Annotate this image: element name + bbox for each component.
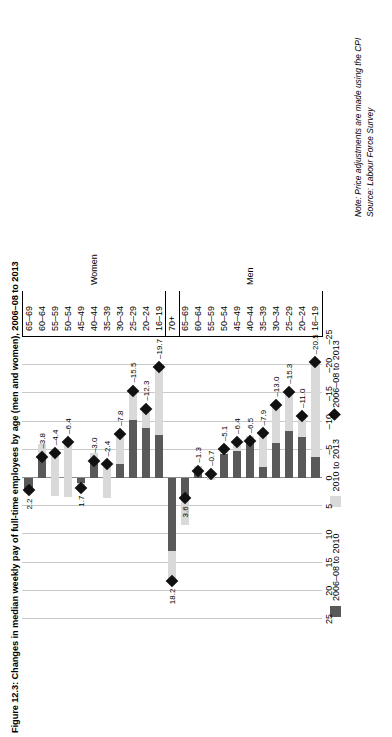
bar-row	[181, 337, 189, 619]
data-label: –1.3	[194, 447, 203, 463]
bar-row	[233, 337, 241, 619]
bar-segment-period1	[220, 454, 228, 478]
category-label: 55–59	[50, 306, 60, 331]
category-label: 55–59	[206, 306, 216, 331]
data-label: 18.2	[168, 589, 177, 605]
category-label: 65–69	[24, 306, 34, 331]
figure-stage: Figure 12.3: Changes in median weekly pa…	[0, 0, 392, 737]
figure-notes: Note: Price adjustments are made using t…	[352, 38, 376, 217]
plot-area: 2520151050–5–10–15–20–252.2–3.8–4.4–6.41…	[22, 337, 322, 619]
bar-row	[246, 337, 254, 619]
group-label: Women	[89, 254, 99, 285]
data-label: 1.7	[76, 496, 85, 507]
category-label: 50–54	[63, 306, 73, 331]
legend-item: 2006–08 to 2010	[330, 533, 341, 617]
bar-segment-period2	[64, 442, 72, 497]
data-label: –6.4	[63, 418, 72, 434]
bar-segment-period1	[259, 467, 267, 478]
category-label: 65–69	[180, 306, 190, 331]
page-title: Figure 12.3: Changes in median weekly pa…	[10, 261, 20, 733]
bar-segment-period1	[155, 435, 163, 478]
data-label: –3.0	[89, 438, 98, 454]
legend-item: 2006–08 to 2013	[331, 340, 341, 413]
figure-source: Source: Labour Force Survey	[364, 38, 376, 217]
x-axis-tick-label: 10	[324, 529, 334, 539]
data-label: –13.0	[272, 377, 281, 397]
bar-segment-period2	[311, 362, 319, 456]
category-label: 40–44	[89, 306, 99, 331]
group-separator	[22, 291, 23, 337]
bar-row	[77, 337, 85, 619]
bar-row	[220, 337, 228, 619]
bar-row	[155, 337, 163, 619]
category-label: 40–44	[245, 306, 255, 331]
data-label: –7.9	[259, 410, 268, 426]
category-label: 30–34	[115, 306, 125, 331]
data-label: 2.2	[24, 498, 33, 509]
bar-segment-period1	[116, 464, 124, 478]
category-axis: 65–6960–6455–5950–5445–4940–4435–3930–34…	[22, 277, 322, 337]
x-axis-tick-label: –10	[324, 414, 334, 429]
group-label: Men	[245, 267, 255, 285]
bar-row	[142, 337, 150, 619]
x-axis-tick-label: –5	[324, 445, 334, 455]
bar-row	[90, 337, 98, 619]
bar-row	[298, 337, 306, 619]
category-label: 16–19	[154, 306, 164, 331]
data-label: –20.5	[311, 334, 320, 354]
x-axis-tick-label: –20	[324, 358, 334, 373]
category-label: 45–49	[232, 306, 242, 331]
category-axis-line	[22, 336, 322, 337]
bar-row	[103, 337, 111, 619]
data-label: –4.4	[50, 430, 59, 446]
bar-segment-period1	[129, 420, 137, 478]
category-label: 50–54	[219, 306, 229, 331]
bar-row	[311, 337, 319, 619]
bar-row	[38, 337, 46, 619]
bar-segment-period1	[272, 443, 280, 478]
data-label: –0.7	[207, 450, 216, 466]
data-label: –7.8	[115, 410, 124, 426]
bar-segment-period2	[155, 367, 163, 435]
data-label: –2.4	[102, 441, 111, 457]
category-label: 70+	[167, 316, 177, 331]
category-label: 45–49	[76, 306, 86, 331]
figure-note: Note: Price adjustments are made using t…	[352, 38, 364, 217]
category-label: 35–39	[102, 306, 112, 331]
x-axis-tick-label: 20	[324, 586, 334, 596]
bar-row	[194, 337, 202, 619]
data-label: –19.7	[154, 339, 163, 359]
data-label: –11.0	[298, 389, 307, 408]
bar-segment-period1	[285, 431, 293, 478]
bar-segment-period1	[142, 428, 150, 478]
x-axis-tick-label: 5	[324, 504, 334, 509]
category-label: 60–64	[37, 306, 47, 331]
data-label: –3.8	[37, 433, 46, 449]
group-separator	[322, 291, 323, 337]
bar-segment-period1	[168, 478, 176, 551]
category-label: 30–34	[271, 306, 281, 331]
x-axis-tick-label: 25	[324, 614, 334, 624]
bar-row	[116, 337, 124, 619]
bar-row	[24, 337, 32, 619]
category-label: 20–24	[297, 306, 307, 331]
category-label: 25–29	[284, 306, 294, 331]
data-label: –15.5	[128, 363, 137, 383]
group-separator	[165, 291, 166, 337]
data-label: –6.4	[233, 418, 242, 434]
data-label: –5.1	[220, 426, 229, 442]
bar-segment-period1	[233, 452, 241, 479]
data-label: 3.6	[181, 506, 190, 517]
category-label: 20–24	[141, 306, 151, 331]
bar-row	[259, 337, 267, 619]
group-separator	[179, 291, 180, 337]
bar-segment-period1	[298, 437, 306, 478]
category-label: 25–29	[128, 306, 138, 331]
bar-row	[51, 337, 59, 619]
category-label: 16–19	[310, 306, 320, 331]
x-axis-tick-label: –25	[324, 329, 334, 344]
x-axis-tick-label: –15	[324, 386, 334, 401]
data-label: –15.3	[285, 364, 294, 384]
x-axis-tick-label: 15	[324, 558, 334, 568]
data-label: –6.5	[246, 418, 255, 434]
